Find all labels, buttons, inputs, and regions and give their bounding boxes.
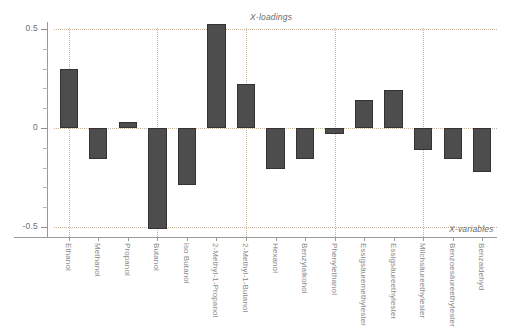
x-tick-label: Benzaldehyd (477, 243, 486, 290)
bar (148, 128, 166, 229)
x-tick (305, 237, 306, 241)
y-tick-label: 0 (4, 122, 38, 132)
x-tick (482, 237, 483, 241)
bar (237, 84, 255, 128)
y-tick-minor (43, 108, 48, 109)
x-axis-line (14, 237, 497, 238)
y-tick-minor (43, 69, 48, 70)
x-tick-label: Essigsäuremethylester (359, 243, 368, 326)
y-axis-line (47, 22, 48, 237)
y-tick-label: 0.5 (4, 23, 38, 33)
y-tick-minor (43, 168, 48, 169)
bar (119, 122, 137, 128)
x-tick-label: Essigsäureethylester (389, 243, 398, 319)
x-tick (335, 237, 336, 241)
x-loadings-bar-chart: 0.50-0.5 EthanolMethanolPropanolButanoli… (0, 0, 512, 336)
x-tick (157, 237, 158, 241)
gridline-horizontal (54, 29, 497, 30)
x-tick (394, 237, 395, 241)
x-tick-label: Ethanol (64, 243, 73, 271)
x-axis-title: X-variables (449, 224, 494, 234)
x-tick (276, 237, 277, 241)
x-tick (98, 237, 99, 241)
x-tick-label: 2-Methyl-1-Propanol (211, 243, 220, 317)
gridline-vertical (69, 28, 70, 237)
x-tick-label: 2-Methyl-1-Butanol (241, 243, 250, 312)
x-tick-label: iso Butanol (182, 243, 191, 284)
gridline-horizontal (54, 227, 497, 228)
y-tick-minor (43, 207, 48, 208)
bar (60, 69, 78, 128)
x-tick (364, 237, 365, 241)
bar (444, 128, 462, 159)
y-tick-label: -0.5 (4, 221, 38, 231)
bar (414, 128, 432, 150)
gridline-vertical (246, 28, 247, 237)
bar (207, 24, 225, 128)
bar (178, 128, 196, 185)
y-tick-minor (43, 187, 48, 188)
y-tick-minor (43, 49, 48, 50)
x-tick (423, 237, 424, 241)
bar (266, 128, 284, 169)
x-tick-label: Butanol (152, 243, 161, 271)
x-tick-label: Propanol (123, 243, 132, 276)
y-tick-major (41, 128, 48, 129)
x-tick-label: Benzoesäureethylester (448, 243, 457, 327)
y-tick-minor (43, 148, 48, 149)
x-tick-label: Hexanol (271, 243, 280, 273)
x-tick (187, 237, 188, 241)
bar (89, 128, 107, 159)
bar (296, 128, 314, 159)
bar (384, 90, 402, 128)
x-tick (246, 237, 247, 241)
y-tick-minor (43, 88, 48, 89)
x-tick-label: Milchsäureethylester (418, 243, 427, 318)
x-tick-label: Methanol (93, 243, 102, 277)
x-tick (453, 237, 454, 241)
x-tick (128, 237, 129, 241)
x-tick (69, 237, 70, 241)
x-tick (216, 237, 217, 241)
x-tick-label: Phenylethanol (330, 243, 339, 295)
y-axis-title: X-loadings (250, 12, 292, 22)
bar (355, 100, 373, 128)
bar (473, 128, 491, 172)
y-tick-major (41, 29, 48, 30)
x-tick-label: Benzylalkohol (300, 243, 309, 294)
y-tick-major (41, 227, 48, 228)
bar (325, 128, 343, 134)
